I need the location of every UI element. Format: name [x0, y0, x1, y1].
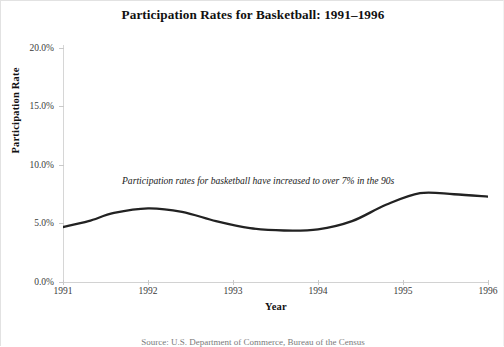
x-tick-label-1991: 1991 [33, 286, 93, 296]
x-tick-label-1995: 1995 [373, 286, 433, 296]
series-line-basketball [63, 192, 488, 230]
y-axis-title: Participation Rate [10, 51, 21, 171]
x-axis-line [63, 282, 489, 283]
x-tick-label-1994: 1994 [288, 286, 348, 296]
footer-source-clip: Source: U.S. Department of Commerce, Bur… [1, 339, 504, 347]
footer-source-text: Source: U.S. Department of Commerce, Bur… [1, 339, 504, 347]
x-tick-mark-1996 [488, 280, 489, 285]
y-tick-label-5: 5.0% [6, 218, 54, 228]
chart-title: Participation Rates for Basketball: 1991… [1, 7, 504, 23]
chart-annotation: Participation rates for basketball have … [122, 175, 394, 186]
x-tick-label-1992: 1992 [118, 286, 178, 296]
x-tick-label-1996: 1996 [458, 286, 504, 296]
line-series-svg [63, 48, 488, 282]
x-axis-title: Year [63, 301, 489, 312]
y-tick-label-5-wrap: 5.0% [1, 218, 54, 228]
plot-area [63, 48, 488, 282]
x-tick-label-1993: 1993 [203, 286, 263, 296]
